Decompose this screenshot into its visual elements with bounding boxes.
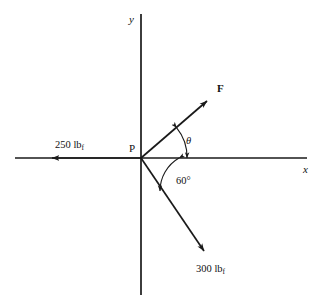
label-force-300-text: 300 lb <box>196 263 223 274</box>
label-angle-sixty: 60° <box>176 176 191 187</box>
label-force-250-subscript: f <box>82 143 85 152</box>
vector-F <box>141 101 207 158</box>
diagram-canvas <box>0 0 323 301</box>
label-vector-f: F <box>217 83 224 94</box>
label-force-250-text: 250 lb <box>55 139 82 150</box>
label-angle-theta: θ <box>186 136 191 147</box>
label-force-250: 250 lbf <box>55 140 84 151</box>
y-axis-label: y <box>129 14 134 25</box>
vector-300-lbf <box>141 158 204 251</box>
x-axis-label: x <box>303 164 308 175</box>
origin-label-p: P <box>129 143 135 154</box>
label-force-300: 300 lbf <box>196 264 225 275</box>
label-force-300-subscript: f <box>223 267 226 276</box>
